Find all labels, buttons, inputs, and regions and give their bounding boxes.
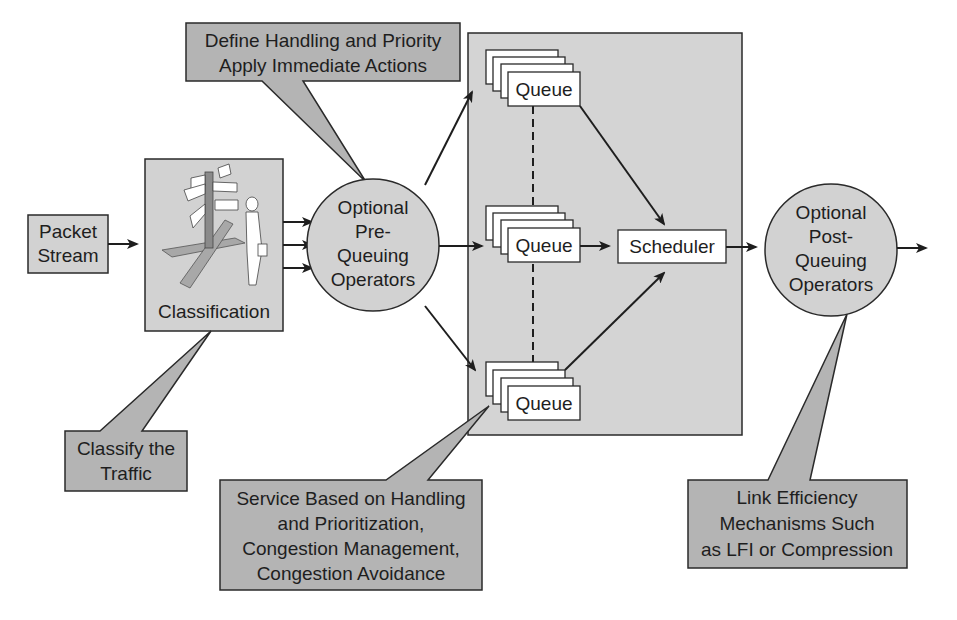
classification-label: Classification	[158, 301, 270, 322]
link-callout-line-3: as LFI or Compression	[701, 539, 893, 560]
service-callout-line-1: Service Based on Handling	[236, 488, 465, 509]
pre-queuing-operators-circle: Optional Pre- Queuing Operators	[307, 179, 439, 311]
queue-middle-label: Queue	[515, 235, 572, 256]
packet-stream-box: Packet Stream	[28, 215, 108, 273]
post-queuing-line-2: Post-	[809, 226, 853, 247]
service-callout-line-4: Congestion Avoidance	[257, 563, 446, 584]
classify-traffic-callout: Classify the Traffic	[65, 331, 211, 491]
post-queuing-operators-circle: Optional Post- Queuing Operators	[765, 184, 897, 316]
pre-queuing-line-2: Pre-	[355, 221, 391, 242]
service-based-callout: Service Based on Handling and Prioritiza…	[220, 406, 489, 590]
packet-stream-label-2: Stream	[37, 245, 98, 266]
classification-box: Classification	[145, 159, 283, 331]
pre-queuing-line-4: Operators	[331, 269, 415, 290]
service-callout-line-2: and Prioritization,	[278, 513, 425, 534]
pre-queuing-line-3: Queuing	[337, 245, 409, 266]
post-queuing-line-3: Queuing	[795, 250, 867, 271]
link-callout-line-2: Mechanisms Such	[719, 513, 874, 534]
post-queuing-line-4: Operators	[789, 274, 873, 295]
classify-callout-line-2: Traffic	[100, 463, 152, 484]
queue-bottom-label: Queue	[515, 393, 572, 414]
define-callout-line-1: Define Handling and Priority	[205, 30, 442, 51]
pre-queuing-line-1: Optional	[338, 197, 409, 218]
post-queuing-line-1: Optional	[796, 202, 867, 223]
packet-stream-label-1: Packet	[39, 221, 98, 242]
classify-callout-line-1: Classify the	[77, 438, 175, 459]
pre-to-queue-top-arrow	[425, 92, 472, 185]
service-callout-line-3: Congestion Management,	[242, 538, 460, 559]
scheduler-box: Scheduler	[618, 230, 726, 263]
link-callout-line-1: Link Efficiency	[736, 487, 858, 508]
define-handling-callout: Define Handling and Priority Apply Immed…	[186, 23, 460, 182]
scheduler-label: Scheduler	[629, 236, 715, 257]
define-callout-line-2: Apply Immediate Actions	[219, 55, 427, 76]
queue-top-label: Queue	[515, 79, 572, 100]
qos-pipeline-diagram: Define Handling and Priority Apply Immed…	[0, 0, 957, 620]
